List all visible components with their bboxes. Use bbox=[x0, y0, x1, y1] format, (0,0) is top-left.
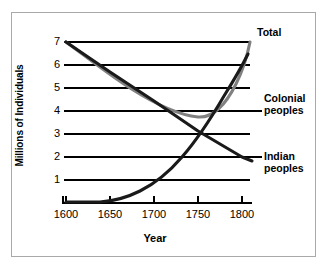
y-tick-label-6: 6 bbox=[44, 59, 60, 70]
series-label-colonial: Colonial peoples bbox=[264, 93, 305, 116]
y-tick-label-4: 4 bbox=[44, 105, 60, 116]
label-leader-lines bbox=[250, 111, 262, 157]
x-tick-label-1800: 1800 bbox=[225, 209, 259, 220]
series-label-total: Total bbox=[257, 27, 281, 39]
series-label-colonial-line2: peoples bbox=[264, 105, 305, 117]
x-tick-label-1750: 1750 bbox=[181, 209, 215, 220]
x-tick-label-1700: 1700 bbox=[137, 209, 171, 220]
chart-figure: 7 6 5 4 3 2 1 1600 1650 1700 1750 1800 M… bbox=[0, 0, 332, 272]
series-label-indian-line1: Indian bbox=[264, 151, 304, 163]
x-axis-title: Year bbox=[100, 232, 210, 244]
x-tick-label-1650: 1650 bbox=[93, 209, 127, 220]
series-label-indian-line2: peoples bbox=[264, 163, 304, 175]
series-label-indian: Indian peoples bbox=[264, 151, 304, 174]
y-tick-label-1: 1 bbox=[44, 174, 60, 185]
y-axis-title: Millions of Individuals bbox=[14, 51, 25, 181]
x-tick-label-1600: 1600 bbox=[49, 209, 83, 220]
y-tick-label-3: 3 bbox=[44, 128, 60, 139]
y-tick-label-2: 2 bbox=[44, 151, 60, 162]
series-line-total bbox=[66, 42, 250, 117]
y-tick-label-5: 5 bbox=[44, 82, 60, 93]
y-tick-label-7: 7 bbox=[44, 36, 60, 47]
series-label-colonial-line1: Colonial bbox=[264, 93, 305, 105]
series-label-total-text: Total bbox=[257, 27, 281, 39]
